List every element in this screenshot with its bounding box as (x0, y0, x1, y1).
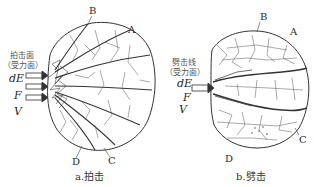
point-a-label: A (128, 25, 135, 35)
point-b-label: B (89, 6, 96, 16)
point-c-label: C (299, 135, 307, 145)
point-d-label: D (72, 157, 80, 167)
point-d-label: D (225, 154, 233, 164)
figure-a-slap-impact: B A C D 拍击面 （受力面） dE F V a.拍击 (0, 0, 157, 187)
force-surface-label: （受力面） (3, 61, 43, 70)
energy-label: dE (177, 79, 192, 89)
energy-label: dE (9, 74, 24, 84)
figure-a-caption: a.拍击 (75, 172, 104, 182)
velocity-label: V (14, 107, 22, 117)
force-surface-label: （受力面） (165, 68, 205, 77)
slap-surface-label: 拍击面 (10, 51, 34, 60)
force-label: F (14, 91, 22, 101)
point-a-label: A (290, 27, 297, 37)
figure-b-caption: b.劈击 (236, 172, 266, 182)
figure-b-chop-impact: B A C D 劈击线 （受力面） dE F V b.劈击 (157, 0, 314, 187)
velocity-label: V (179, 105, 187, 115)
point-b-label: B (260, 12, 267, 22)
force-label: F (183, 93, 191, 103)
chop-line-label: 劈击线 (172, 58, 196, 67)
point-c-label: C (108, 156, 116, 166)
